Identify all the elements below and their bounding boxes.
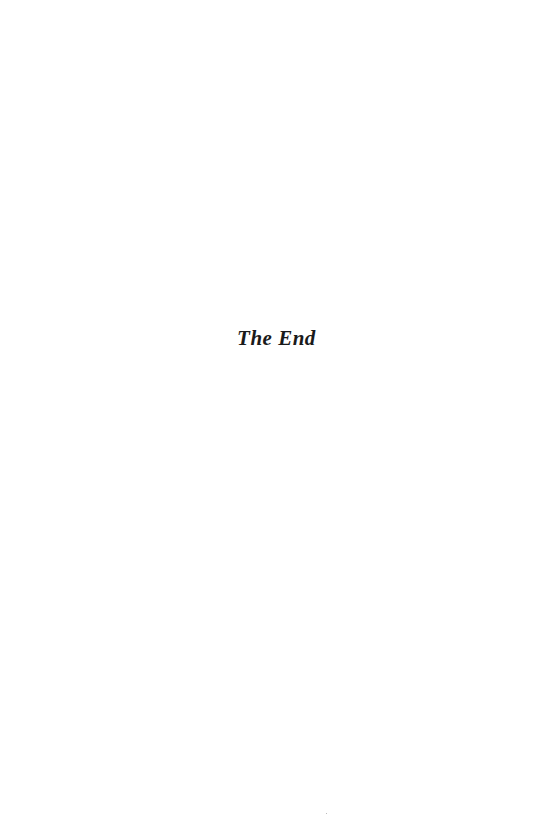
closing-text: The End: [0, 324, 553, 352]
scan-speck: [326, 813, 327, 814]
book-page: The End: [0, 0, 553, 836]
